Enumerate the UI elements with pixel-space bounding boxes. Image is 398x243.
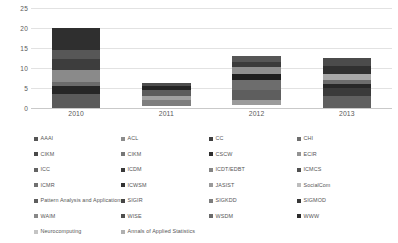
bar-segment xyxy=(142,86,191,90)
legend-item[interactable]: ICMR xyxy=(34,183,55,188)
legend-item[interactable]: ICC xyxy=(34,167,50,172)
legend-swatch-icon xyxy=(34,183,38,187)
legend-swatch-icon xyxy=(34,168,38,172)
legend-swatch-icon xyxy=(34,199,38,203)
legend-swatch-icon xyxy=(209,152,213,156)
legend-label: AAAI xyxy=(41,136,54,141)
legend-swatch-icon xyxy=(121,230,125,234)
legend-swatch-icon xyxy=(121,152,125,156)
legend-swatch-icon xyxy=(297,214,301,218)
legend-label: ACL xyxy=(128,136,139,141)
y-tick-label-25: 25 xyxy=(20,5,28,12)
y-tick-label-0: 0 xyxy=(24,105,28,112)
gridline-0 xyxy=(31,108,392,109)
legend-swatch-icon xyxy=(209,183,213,187)
legend-swatch-icon xyxy=(209,137,213,141)
legend-label: ICWSM xyxy=(128,183,147,188)
bar-segment xyxy=(52,82,101,86)
bar-segment xyxy=(323,66,372,74)
bar-segment xyxy=(232,67,281,75)
legend-item[interactable]: ICWSM xyxy=(121,183,147,188)
legend-label: SocialCom xyxy=(304,183,331,188)
legend-item[interactable]: Pattern Analysis and Applications xyxy=(34,198,123,203)
bar-segment xyxy=(323,58,372,65)
legend-item[interactable]: ICDT/EDBT xyxy=(209,167,245,172)
legend-item[interactable]: CC xyxy=(209,136,224,141)
legend-item[interactable]: SIGKDD xyxy=(209,198,237,203)
bar-2010[interactable] xyxy=(52,8,101,108)
y-tick-label-15: 15 xyxy=(20,45,28,52)
legend-label: WWW xyxy=(304,214,320,219)
legend-item[interactable]: CHI xyxy=(297,136,313,141)
bar-segment xyxy=(52,94,101,108)
legend-item[interactable]: AAAI xyxy=(34,136,53,141)
x-tick-label-2011: 2011 xyxy=(121,110,211,117)
bar-segment xyxy=(52,86,101,94)
legend-item[interactable]: JASIST xyxy=(209,183,234,188)
legend-item[interactable]: WWW xyxy=(297,214,319,219)
legend-label: CIKM xyxy=(128,152,142,157)
bar-2013[interactable] xyxy=(323,8,372,108)
y-tick-label-5: 5 xyxy=(24,85,28,92)
legend-swatch-icon xyxy=(297,152,301,156)
legend-swatch-icon xyxy=(121,183,125,187)
legend-item[interactable]: WISE xyxy=(121,214,142,219)
y-tick-label-20: 20 xyxy=(20,25,28,32)
legend-swatch-icon xyxy=(297,137,301,141)
bar-2012[interactable] xyxy=(232,8,281,108)
bar-segment xyxy=(323,96,372,108)
bar-segment xyxy=(323,88,372,96)
legend-label: WAIM xyxy=(41,214,56,219)
legend-label: SIGIR xyxy=(128,198,143,203)
legend-item[interactable]: WSDM xyxy=(209,214,233,219)
bars-container xyxy=(31,8,392,108)
legend-item[interactable]: Annals of Applied Statistics xyxy=(121,229,195,234)
legend-label: ICC xyxy=(41,167,51,172)
legend-swatch-icon xyxy=(209,214,213,218)
legend-swatch-icon xyxy=(121,214,125,218)
bar-segment xyxy=(232,100,281,104)
bar-segment xyxy=(323,80,372,84)
legend-item[interactable]: SIGMOD xyxy=(297,198,326,203)
x-axis-labels: 2010201120122013 xyxy=(31,110,392,124)
y-axis-labels: 0510152025 xyxy=(0,8,30,108)
legend-label: WSDM xyxy=(216,214,233,219)
legend-swatch-icon xyxy=(297,168,301,172)
legend-item[interactable]: Neurocomputing xyxy=(34,229,81,234)
x-tick-label-2010: 2010 xyxy=(31,110,121,117)
bar-segment xyxy=(232,56,281,62)
legend-swatch-icon xyxy=(121,168,125,172)
legend-item[interactable]: CSCW xyxy=(209,152,232,157)
legend-label: ICMR xyxy=(41,183,55,188)
bar-segment xyxy=(52,59,101,69)
stacked-bar-chart: 0510152025 2010201120122013 AAAICIKMICCI… xyxy=(0,0,398,243)
legend-swatch-icon xyxy=(34,230,38,234)
legend-swatch-icon xyxy=(34,214,38,218)
y-tick-label-10: 10 xyxy=(20,65,28,72)
legend-item[interactable]: CIKM xyxy=(34,152,54,157)
bar-segment xyxy=(232,74,281,80)
legend-swatch-icon xyxy=(297,199,301,203)
bar-segment xyxy=(232,62,281,67)
legend-item[interactable]: ECIR xyxy=(297,152,317,157)
legend-label: CC xyxy=(216,136,224,141)
bar-segment xyxy=(142,96,191,100)
bar-segment xyxy=(142,83,191,86)
chart-legend: AAAICIKMICCICMRPattern Analysis and Appl… xyxy=(0,133,398,243)
bar-segment xyxy=(323,74,372,80)
legend-swatch-icon xyxy=(209,199,213,203)
legend-item[interactable]: SocialCom xyxy=(297,183,330,188)
bar-segment xyxy=(232,90,281,100)
bar-2011[interactable] xyxy=(142,8,191,108)
legend-item[interactable]: SIGIR xyxy=(121,198,143,203)
legend-label: CSCW xyxy=(216,152,233,157)
legend-label: CIKM xyxy=(41,152,55,157)
legend-item[interactable]: WAIM xyxy=(34,214,55,219)
legend-item[interactable]: ICDM xyxy=(121,167,142,172)
legend-swatch-icon xyxy=(121,137,125,141)
x-tick-label-2012: 2012 xyxy=(212,110,302,117)
legend-item[interactable]: ACL xyxy=(121,136,138,141)
legend-item[interactable]: ICMCS xyxy=(297,167,321,172)
x-tick-label-2013: 2013 xyxy=(302,110,392,117)
legend-item[interactable]: CIKM xyxy=(121,152,141,157)
